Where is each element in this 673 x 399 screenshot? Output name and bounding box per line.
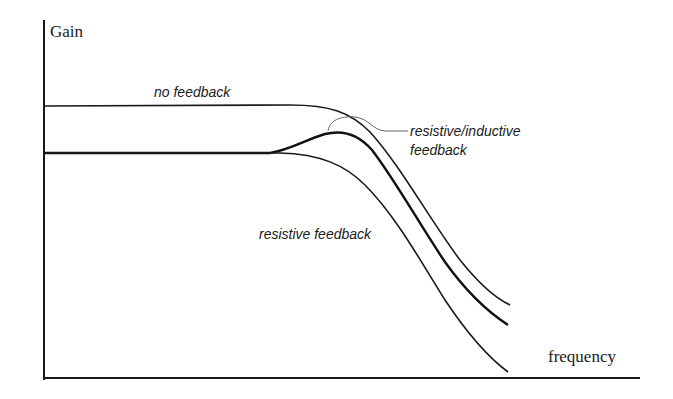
resistive-inductive-label-line2: feedback [410,142,468,158]
x-axis-label: frequency [548,347,616,366]
resistive-inductive-label-line1: resistive/inductive [410,123,521,139]
gain-frequency-diagram: Gain frequency no feedback resistive/ind… [0,0,673,399]
no-feedback-label: no feedback [154,84,231,100]
resistive-feedback-label: resistive feedback [259,226,372,242]
y-axis-label: Gain [50,22,84,41]
resistive-feedback-curve [44,153,508,372]
annotation-leader-line [328,117,408,131]
